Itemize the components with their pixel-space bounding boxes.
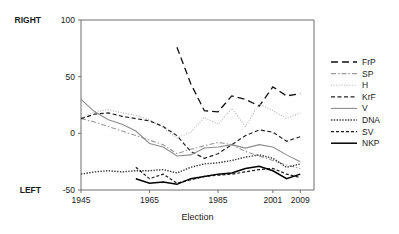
- x-tick-label: 1965: [140, 195, 159, 205]
- axis-anchor-right: RIGHT: [15, 15, 42, 25]
- line-chart: -50050100RIGHTLEFT19451965198520012009El…: [0, 0, 399, 234]
- x-tick-label: 2001: [263, 195, 282, 205]
- series-line-dna: [81, 155, 300, 174]
- x-tick-label: 1945: [72, 195, 91, 205]
- legend-label-v: V: [362, 103, 368, 113]
- legend-item-v: V: [331, 103, 368, 113]
- legend-label-dna: DNA: [362, 115, 380, 125]
- legend-label-nkp: NKP: [362, 138, 380, 148]
- y-tick-label: 0: [70, 128, 75, 138]
- chart-root: -50050100RIGHTLEFT19451965198520012009El…: [0, 0, 399, 234]
- legend-label-krf: KrF: [362, 92, 376, 102]
- series-line-sp: [81, 119, 300, 169]
- legend-item-sp: SP: [331, 69, 374, 79]
- y-tick-label: -50: [63, 185, 76, 195]
- legend-label-sp: SP: [362, 69, 374, 79]
- series-line-frp: [177, 47, 300, 112]
- x-axis-title: Election: [181, 212, 213, 222]
- legend-label-frp: FrP: [362, 57, 376, 67]
- x-tick-label: 2009: [291, 195, 310, 205]
- x-tick-label: 1985: [209, 195, 228, 205]
- legend-label-h: H: [362, 80, 368, 90]
- legend-item-nkp: NKP: [331, 138, 380, 148]
- legend-item-sv: SV: [331, 127, 374, 137]
- series-line-v: [81, 99, 300, 161]
- legend-item-dna: DNA: [331, 115, 380, 125]
- y-tick-label: 50: [66, 72, 76, 82]
- legend-item-frp: FrP: [331, 57, 376, 67]
- series-line-h: [81, 104, 300, 138]
- plot-frame: [81, 20, 314, 190]
- axis-anchor-left: LEFT: [20, 185, 42, 195]
- legend-item-krf: KrF: [331, 92, 376, 102]
- legend-label-sv: SV: [362, 127, 374, 137]
- series-line-krf: [81, 113, 300, 158]
- legend-item-h: H: [331, 80, 368, 90]
- y-tick-label: 100: [61, 15, 75, 25]
- series-line-sv: [136, 167, 300, 183]
